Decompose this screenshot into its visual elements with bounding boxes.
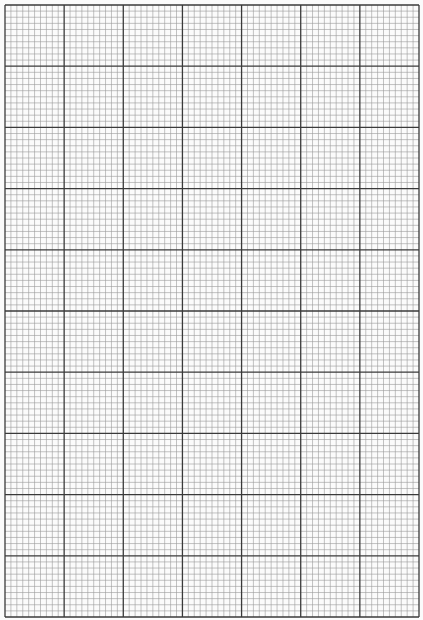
grid-lines [0, 0, 423, 620]
graph-paper-sheet [0, 0, 423, 620]
